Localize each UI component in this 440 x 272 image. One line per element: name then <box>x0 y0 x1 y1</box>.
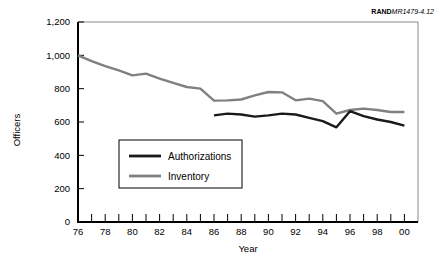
x-tick-label: 84 <box>182 226 193 237</box>
series-line-authorizations <box>214 111 404 127</box>
legend-label-inventory: Inventory <box>168 171 209 182</box>
x-tick-label: 94 <box>318 226 329 237</box>
series-line-inventory <box>78 55 404 113</box>
line-chart: 02004006008001,0001,200 7678808284868890… <box>0 0 440 272</box>
x-tick-label: 78 <box>100 226 111 237</box>
y-tick-label: 200 <box>54 183 70 194</box>
y-axis-title: Officers <box>11 113 22 146</box>
y-tick-label: 1,000 <box>46 50 70 61</box>
y-tick-label: 1,200 <box>46 16 70 27</box>
x-tick-label: 80 <box>127 226 138 237</box>
legend-label-authorizations: Authorizations <box>168 151 231 162</box>
x-tick-label: 86 <box>209 226 220 237</box>
data-series-group <box>78 55 404 127</box>
x-tick-label: 00 <box>399 226 410 237</box>
x-axis-tick-labels: 76788082848688909294969800 <box>73 226 410 237</box>
x-tick-label: 92 <box>290 226 301 237</box>
x-tick-label: 82 <box>154 226 165 237</box>
x-tick-label: 98 <box>372 226 383 237</box>
x-tick-label: 88 <box>236 226 247 237</box>
chart-figure: RANDMR1479-4.12 02004006008001,0001,200 … <box>0 0 440 272</box>
x-axis-ticks <box>78 214 404 222</box>
y-tick-label: 600 <box>54 116 70 127</box>
x-tick-label: 90 <box>263 226 274 237</box>
chart-legend: AuthorizationsInventory <box>119 140 242 188</box>
y-tick-label: 0 <box>65 216 70 227</box>
x-axis-title: Year <box>238 243 257 254</box>
y-axis-tick-labels: 02004006008001,0001,200 <box>46 16 70 227</box>
y-tick-label: 400 <box>54 150 70 161</box>
y-tick-label: 800 <box>54 83 70 94</box>
x-tick-label: 96 <box>345 226 356 237</box>
x-tick-label: 76 <box>73 226 84 237</box>
plot-frame <box>77 22 418 222</box>
